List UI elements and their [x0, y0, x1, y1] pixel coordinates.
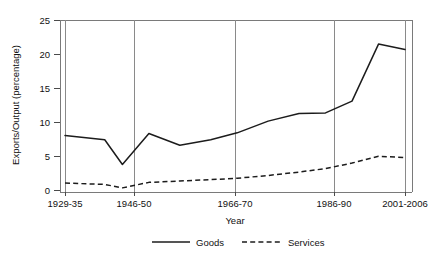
y-tick-labels: 25 20 15 10 5 0: [39, 15, 50, 196]
x-tick-label: 1986-90: [317, 198, 352, 209]
legend-label-goods: Goods: [196, 237, 224, 248]
y-axis-title: Exports/Output (percentage): [10, 45, 21, 165]
vertical-gridlines: [65, 20, 405, 192]
x-tick-label: 2001-2006: [382, 198, 427, 209]
y-tick-label: 5: [45, 151, 50, 162]
exports-output-line-chart: Exports/Output (percentage) 25 20 15 10 …: [0, 0, 440, 256]
y-tick-label: 10: [39, 117, 50, 128]
chart-legend: Goods Services: [152, 237, 325, 248]
y-tick-label: 20: [39, 49, 50, 60]
x-tick-label: 1966-70: [218, 198, 253, 209]
legend-label-services: Services: [288, 237, 325, 248]
x-tick-labels: 1929-35 1946-50 1966-70 1986-90 2001-200…: [48, 198, 428, 209]
x-axis-title: Year: [225, 215, 244, 226]
y-tick-label: 15: [39, 83, 50, 94]
y-tick-label: 0: [45, 185, 50, 196]
y-tick-label: 25: [39, 15, 50, 26]
y-tick-marks: [54, 20, 60, 190]
x-tick-label: 1946-50: [117, 198, 152, 209]
plot-frame: [60, 20, 412, 192]
x-tick-marks: [65, 192, 405, 196]
x-tick-label: 1929-35: [48, 198, 83, 209]
